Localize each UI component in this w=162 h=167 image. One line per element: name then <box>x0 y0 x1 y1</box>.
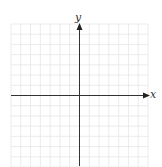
x-axis-label: x <box>150 89 156 100</box>
coordinate-plane <box>0 0 162 167</box>
y-axis-label: y <box>75 12 81 23</box>
x-axis-arrow-icon <box>143 93 150 99</box>
